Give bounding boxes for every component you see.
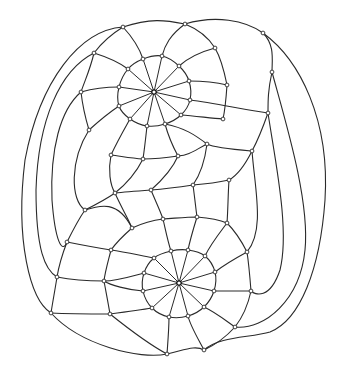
graph-edge — [51, 308, 152, 314]
vertex — [225, 221, 229, 225]
graph-edge — [123, 19, 326, 350]
graph-edge — [188, 316, 204, 350]
vertex — [191, 183, 195, 187]
vertex — [152, 256, 156, 260]
graph-edge — [189, 81, 227, 85]
vertex — [221, 117, 225, 121]
graph-edge — [205, 223, 227, 256]
vertex — [117, 85, 121, 89]
graph-edge — [115, 180, 229, 193]
graph-edge — [167, 317, 169, 354]
graph-edge — [151, 190, 163, 219]
graph-edge — [163, 219, 171, 251]
graph-edge — [89, 106, 119, 130]
vertex — [65, 240, 69, 244]
graph-edge — [193, 185, 197, 217]
graph-edge — [85, 206, 227, 228]
vertex — [145, 124, 149, 128]
vertex — [187, 79, 191, 83]
graph-edge — [247, 113, 268, 252]
graph-edge — [110, 314, 167, 354]
vertex — [117, 104, 121, 108]
graph-edge — [111, 228, 132, 250]
graph-edge — [111, 119, 130, 155]
vertex — [87, 128, 91, 132]
vertex — [49, 311, 53, 315]
graph-edge — [115, 159, 143, 193]
graph-diagram — [0, 0, 343, 386]
graph-edge — [81, 87, 119, 92]
top-hub — [152, 90, 156, 94]
graph-edge — [51, 210, 85, 313]
vertex — [177, 64, 181, 68]
spoke-edge — [130, 92, 154, 119]
spoke-edge — [147, 92, 154, 126]
graph-edge — [215, 252, 247, 272]
vertex — [225, 83, 229, 87]
vertex — [167, 315, 171, 319]
graph-edge — [188, 217, 197, 250]
graph-edge — [181, 115, 223, 119]
vertex — [169, 249, 173, 253]
graph-edge — [235, 33, 306, 327]
bottom-hub — [177, 281, 181, 285]
vertex — [130, 226, 134, 230]
vertex — [108, 312, 112, 316]
vertex — [270, 70, 274, 74]
graph-edge — [190, 100, 268, 113]
vertex — [141, 57, 145, 61]
vertex — [195, 215, 199, 219]
vertex — [202, 348, 206, 352]
graph-edge — [204, 307, 235, 327]
graph-edge — [74, 130, 89, 210]
vertex — [113, 191, 117, 195]
vertex — [150, 306, 154, 310]
graph-edge — [227, 180, 229, 223]
spoke-edge — [179, 283, 214, 291]
vertex — [266, 111, 270, 115]
vertex — [92, 51, 96, 55]
graph-edge — [22, 27, 204, 355]
graph-edge — [151, 156, 178, 190]
graph-edge — [229, 151, 252, 180]
hub-spokes — [119, 56, 215, 317]
vertex — [121, 25, 125, 29]
graph-edge — [165, 124, 178, 156]
vertex — [186, 314, 190, 318]
vertex — [213, 46, 217, 50]
graph-edges — [22, 19, 326, 355]
vertex — [83, 208, 87, 212]
vertex — [261, 31, 265, 35]
vertex — [109, 248, 113, 252]
vertex — [203, 254, 207, 258]
graph-edge — [104, 281, 143, 291]
vertex — [149, 188, 153, 192]
spoke-edge — [143, 283, 179, 291]
vertex — [233, 325, 237, 329]
vertex — [128, 117, 132, 121]
graph-edge — [94, 53, 128, 69]
vertex — [176, 154, 180, 158]
graph-edge — [81, 27, 123, 130]
vertex — [142, 271, 146, 275]
vertex — [212, 289, 216, 293]
vertex — [188, 98, 192, 102]
vertex — [213, 270, 217, 274]
graph-edge — [179, 48, 215, 66]
graph-edge — [111, 144, 252, 159]
spoke-edge — [171, 251, 179, 283]
vertex — [202, 305, 206, 309]
graph-edge — [162, 24, 185, 56]
vertex — [250, 149, 254, 153]
vertex — [249, 289, 253, 293]
graph-edge — [143, 126, 147, 159]
spoke-edge — [154, 56, 162, 92]
graph-edge — [85, 155, 115, 210]
graph-edge — [57, 273, 144, 281]
vertex — [109, 153, 113, 157]
vertex — [205, 142, 209, 146]
vertex — [79, 90, 83, 94]
vertex — [163, 122, 167, 126]
graph-edge — [36, 53, 94, 277]
vertex — [186, 248, 190, 252]
